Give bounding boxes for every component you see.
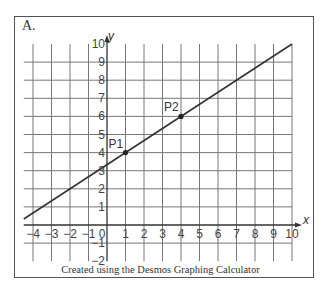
x-tick-label: 3: [159, 227, 166, 241]
point-label-p1: P1: [109, 137, 124, 151]
x-tick-label: 2: [141, 227, 148, 241]
x-tick-label: 10: [285, 227, 299, 241]
y-tick-label: 10: [92, 37, 106, 51]
y-tick-label: 6: [98, 109, 105, 123]
x-tick-label: 1: [122, 227, 129, 241]
y-tick-label: 5: [98, 128, 105, 142]
chart-plot-area: xy−4−3−2−1012345678910−2−112345678910P1P…: [0, 0, 321, 285]
x-tick-label: −3: [45, 227, 59, 241]
x-tick-label: 8: [252, 227, 259, 241]
data-point-p1: [123, 150, 128, 155]
y-tick-label: 1: [98, 200, 105, 214]
point-label-p2: P2: [164, 100, 179, 114]
x-axis-label: x: [302, 213, 310, 227]
x-tick-label: −2: [63, 227, 77, 241]
y-tick-label: 4: [98, 146, 105, 160]
x-tick-label: 6: [215, 227, 222, 241]
y-tick-label: −1: [91, 236, 105, 250]
x-tick-label: 7: [233, 227, 240, 241]
y-tick-label: 7: [98, 91, 105, 105]
x-tick-label: 5: [196, 227, 203, 241]
data-line: [24, 44, 292, 219]
x-tick-label: −4: [26, 227, 40, 241]
y-tick-label: 2: [98, 182, 105, 196]
credit-caption: Created using the Desmos Graphing Calcul…: [0, 264, 321, 275]
x-tick-label: 9: [270, 227, 277, 241]
data-point-p2: [178, 114, 183, 119]
x-tick-label: 4: [178, 227, 185, 241]
y-axis-label: y: [107, 29, 115, 43]
y-tick-label: 9: [98, 55, 105, 69]
y-tick-label: 8: [98, 73, 105, 87]
